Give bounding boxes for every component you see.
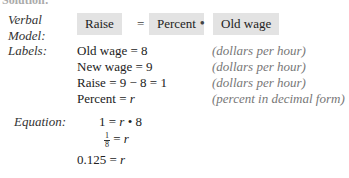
label-raise: Raise = 9 − 8 = 1 (77, 75, 167, 91)
eq1-left: 1 = (99, 114, 119, 129)
equation-line-1: 1 = r • 8 (99, 114, 142, 130)
equals-operator: = (137, 16, 144, 32)
label-percent-text: Percent = (77, 91, 130, 106)
eq3-var: r (120, 152, 125, 167)
verbal-model-heading: Verbal Model: (8, 12, 46, 44)
verbal-model-heading-line2: Model: (8, 28, 46, 44)
equation-line-2: 1 8 = r (104, 131, 129, 149)
verbal-model-heading-line1: Verbal (8, 12, 46, 28)
model-term-percent: Percent (149, 13, 204, 35)
eq2-equals: = (110, 131, 124, 146)
model-term-raise: Raise (77, 13, 122, 35)
equation-heading: Equation: (14, 114, 66, 130)
equation-line-3: 0.125 = r (77, 152, 125, 168)
model-term-old-wage: Old wage (213, 13, 279, 35)
multiply-operator: • (200, 15, 205, 31)
section-title-cutoff: Solution: (2, 0, 49, 8)
label-old-wage-unit: (dollars per hour) (212, 43, 306, 59)
label-raise-unit: (dollars per hour) (212, 75, 306, 91)
label-percent-unit: (percent in decimal form) (212, 91, 345, 107)
label-old-wage: Old wage = 8 (77, 43, 148, 59)
eq2-var: r (124, 131, 129, 146)
labels-heading: Labels: (8, 43, 47, 59)
fraction-denominator: 8 (105, 141, 109, 149)
fraction-numerator: 1 (105, 132, 109, 140)
label-new-wage: New wage = 9 (77, 59, 153, 75)
label-percent: Percent = r (77, 91, 135, 107)
label-new-wage-unit: (dollars per hour) (212, 59, 306, 75)
label-percent-var: r (130, 91, 135, 106)
eq1-right: • 8 (124, 114, 142, 129)
eq3-left: 0.125 = (77, 152, 120, 167)
